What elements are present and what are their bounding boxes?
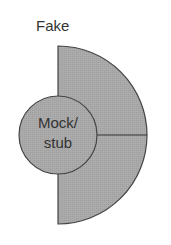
mock-stub-label: Mock/ stub	[19, 113, 97, 153]
stub-label-line: stub	[19, 133, 97, 153]
mock-label-line: Mock/	[19, 113, 97, 133]
